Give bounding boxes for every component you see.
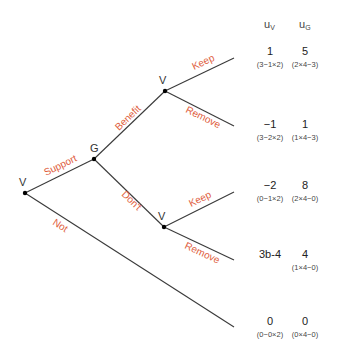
- action-label-not: Not: [51, 216, 70, 234]
- formula-uv-2: (3−2×2): [257, 133, 284, 142]
- action-label-benefit: Benefit: [113, 103, 143, 133]
- formula-uv-1: (3−1×2): [257, 60, 284, 69]
- node-v-upper: [163, 89, 167, 93]
- action-label-lower-remove: Remove: [183, 240, 222, 266]
- edge-not: [25, 193, 234, 327]
- formula-uv-5: (0−0×2): [257, 330, 284, 339]
- payoff-uv-5: 0: [267, 315, 273, 327]
- game-tree: V G V V Support Not Benefit Don't Keep R…: [0, 0, 337, 356]
- payoff-ug-2: 1: [302, 118, 308, 130]
- formula-ug-3: (2×4−0): [292, 194, 319, 203]
- node-v-lower: [162, 225, 166, 229]
- node-g: [92, 157, 96, 161]
- player-label-g: G: [90, 142, 99, 154]
- payoff-ug-5: 0: [302, 315, 308, 327]
- payoff-ug-4: 4: [302, 248, 308, 260]
- formula-ug-5: (0×4−0): [292, 330, 319, 339]
- payoff-ug-3: 8: [302, 179, 308, 191]
- node-root: [23, 191, 27, 195]
- action-label-lower-keep: Keep: [187, 188, 213, 208]
- action-label-dont: Don't: [120, 189, 144, 213]
- player-label-v-upper: V: [159, 74, 167, 86]
- action-label-support: Support: [42, 152, 79, 177]
- payoff-uv-1: 1: [267, 45, 273, 57]
- payoff-uv-3: −2: [264, 179, 277, 191]
- formula-uv-3: (0−1×2): [257, 194, 284, 203]
- action-label-upper-remove: Remove: [184, 104, 223, 130]
- player-label-v-lower: V: [158, 210, 166, 222]
- player-label-root: V: [19, 176, 27, 188]
- header-uv: uV: [264, 18, 275, 31]
- payoff-uv-4: 3b-4: [259, 248, 281, 260]
- formula-ug-2: (1×4−3): [292, 133, 319, 142]
- header-ug: uG: [299, 18, 311, 31]
- formula-ug-4: (1×4−0): [292, 263, 319, 272]
- formula-ug-1: (2×4−3): [292, 60, 319, 69]
- edge-benefit: [94, 91, 165, 159]
- payoff-ug-1: 5: [302, 45, 308, 57]
- payoff-uv-2: −1: [264, 118, 277, 130]
